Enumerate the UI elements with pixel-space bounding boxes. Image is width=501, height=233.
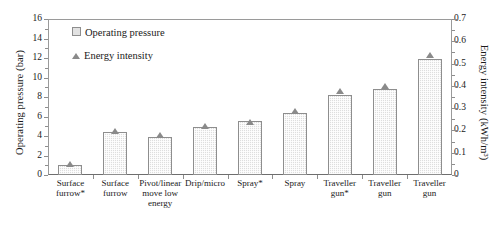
legend-item-energy-intensity: Energy intensity <box>72 50 153 61</box>
bar <box>148 137 172 175</box>
energy-intensity-marker <box>111 128 119 134</box>
y-axis-left-tick-label: 10 <box>20 73 42 83</box>
y-axis-right-tickmark <box>452 19 457 20</box>
y-axis-left-tick-label: 6 <box>20 112 42 122</box>
y-axis-left-tickmark <box>44 117 49 118</box>
energy-intensity-marker <box>336 88 344 94</box>
energy-intensity-marker <box>66 161 74 167</box>
y-axis-right-minor-tickmark <box>452 97 455 98</box>
y-axis-left-minor-tickmark <box>45 126 48 127</box>
bar <box>193 127 217 175</box>
y-axis-right-minor-tickmark <box>452 75 455 76</box>
y-axis-right-tick-label: 0.2 <box>454 125 480 135</box>
bar <box>373 89 397 175</box>
y-axis-right-tickmark <box>452 153 457 154</box>
x-axis-category-label-line: Traveller <box>399 178 461 188</box>
y-axis-right-tickmark <box>452 175 457 176</box>
y-axis-left-tickmark <box>44 19 49 20</box>
y-axis-left-minor-tickmark <box>45 165 48 166</box>
y-axis-right-tickmark <box>452 130 457 131</box>
y-axis-right-minor-tickmark <box>452 30 455 31</box>
y-axis-right-tickmark <box>452 108 457 109</box>
y-axis-right-minor-tickmark <box>452 52 455 53</box>
energy-intensity-marker <box>246 119 254 125</box>
y-axis-left-tick-label: 14 <box>20 34 42 44</box>
legend-label: Energy intensity <box>84 50 153 61</box>
bar <box>103 132 127 175</box>
bar <box>283 113 307 175</box>
y-axis-right-tick-label: 0.1 <box>454 148 480 158</box>
y-axis-left-minor-tickmark <box>45 146 48 147</box>
y-axis-right-tick-label: 0.3 <box>454 103 480 113</box>
y-axis-right-minor-tickmark <box>452 164 455 165</box>
bar <box>328 95 352 175</box>
energy-intensity-marker <box>426 52 434 58</box>
x-axis-category-label-line: move low <box>129 188 191 198</box>
y-axis-right-minor-tickmark <box>452 119 455 120</box>
y-axis-right-tick-label: 0.7 <box>454 14 480 24</box>
y-axis-right-tick-label: 0.5 <box>454 59 480 69</box>
y-axis-left-tickmark <box>44 78 49 79</box>
y-axis-left-tickmark <box>44 58 49 59</box>
y-axis-right-tickmark <box>452 64 457 65</box>
y-axis-right-title: Energy intensity (kWh/m³) <box>479 28 490 178</box>
y-axis-left-tick-label: 12 <box>20 53 42 63</box>
legend-label: Operating pressure <box>85 27 165 38</box>
y-axis-left-tick-label: 4 <box>20 131 42 141</box>
energy-intensity-marker <box>291 108 299 114</box>
x-axis-category-label: Travellergun <box>399 178 461 198</box>
chart-container: Operating pressure (bar) Energy intensit… <box>0 0 501 233</box>
y-axis-right-minor-tickmark <box>452 142 455 143</box>
x-axis-category-label-line: energy <box>129 198 191 208</box>
y-axis-left-tick-label: 2 <box>20 151 42 161</box>
y-axis-left-minor-tickmark <box>45 68 48 69</box>
y-axis-left-minor-tickmark <box>45 107 48 108</box>
y-axis-left-tickmark <box>44 175 49 176</box>
bar <box>418 59 442 175</box>
x-axis-category-label-line: gun <box>399 188 461 198</box>
y-axis-left-tickmark <box>44 156 49 157</box>
y-axis-left-tickmark <box>44 97 49 98</box>
y-axis-left-minor-tickmark <box>45 29 48 30</box>
y-axis-left-tickmark <box>44 136 49 137</box>
y-axis-right-tickmark <box>452 41 457 42</box>
bar <box>238 121 262 175</box>
y-axis-right-tickmark <box>452 86 457 87</box>
y-axis-left-minor-tickmark <box>45 48 48 49</box>
energy-intensity-marker <box>381 83 389 89</box>
legend-square-icon <box>72 27 81 36</box>
y-axis-right-tick-label: 0.4 <box>454 81 480 91</box>
y-axis-right-tick-label: 0.6 <box>454 36 480 46</box>
y-axis-left-minor-tickmark <box>45 87 48 88</box>
y-axis-left-tickmark <box>44 39 49 40</box>
energy-intensity-marker <box>201 123 209 129</box>
y-axis-left-tick-label: 16 <box>20 14 42 24</box>
energy-intensity-marker <box>156 132 164 138</box>
legend-item-operating-pressure: Operating pressure <box>72 27 165 38</box>
y-axis-left-tick-label: 8 <box>20 92 42 102</box>
legend-triangle-icon <box>72 53 80 59</box>
